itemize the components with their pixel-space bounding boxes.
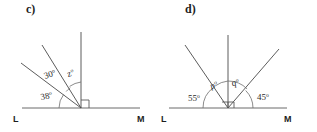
angle-z-degree: o <box>70 67 75 74</box>
arc-angle-p <box>215 81 228 86</box>
angle-38-degree: o <box>48 90 52 96</box>
arc-angle-z <box>70 82 81 86</box>
endpoint-label-M: M <box>284 114 292 124</box>
angle-38-label: 38o <box>40 90 54 102</box>
angle-30-degree: o <box>51 67 56 74</box>
panel-c-figure: 38o 30o zo L M <box>0 0 158 132</box>
panel-d-figure: 55o po qo 45o L M <box>159 0 317 132</box>
angle-45-degree: o <box>266 92 269 98</box>
panel-c: c) 38o 30o <box>0 0 158 132</box>
arc-angle-45 <box>246 91 253 109</box>
endpoint-label-L: L <box>13 114 19 124</box>
endpoint-label-M: M <box>137 114 145 124</box>
angle-q-degree: o <box>236 77 240 83</box>
angle-45-label: 45o <box>257 92 269 103</box>
angle-q-label: qo <box>231 77 240 88</box>
angle-30-label: 30o <box>42 67 57 81</box>
angle-55-label: 55o <box>188 93 200 104</box>
diagram-page: c) 38o 30o <box>0 0 317 132</box>
endpoint-label-L: L <box>161 114 167 124</box>
arc-angle-38 <box>59 94 64 108</box>
angle-z-label: zo <box>66 67 76 79</box>
angle-p-degree: o <box>213 79 217 86</box>
right-angle-marker <box>81 100 89 108</box>
angle-55-degree: o <box>197 93 200 99</box>
panel-d: d) 55o <box>159 0 317 132</box>
